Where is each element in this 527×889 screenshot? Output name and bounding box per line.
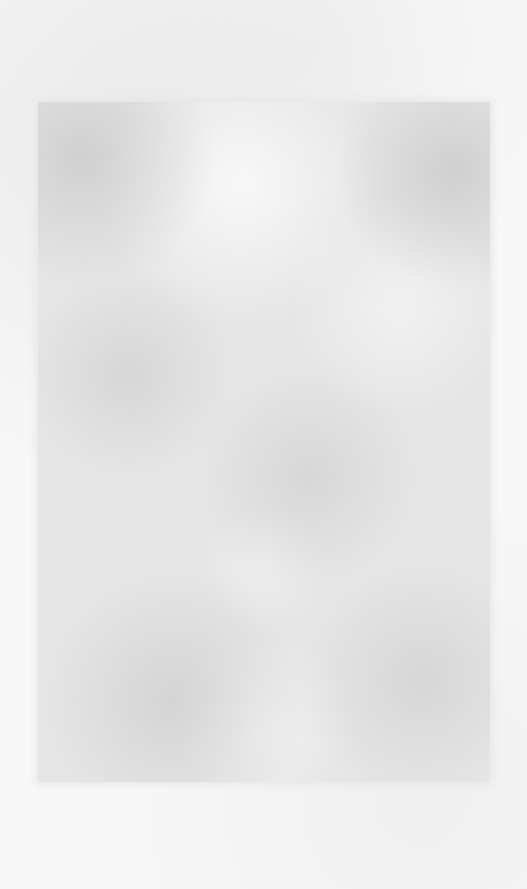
paper-background (0, 0, 527, 889)
gray-textured-rectangle (38, 102, 490, 782)
